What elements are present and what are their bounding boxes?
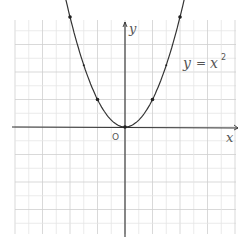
svg-text:y: y [182, 55, 192, 71]
data-point [165, 64, 167, 66]
svg-text:=: = [196, 56, 206, 70]
data-point [178, 15, 182, 19]
data-point [151, 98, 155, 102]
origin-label: O [112, 132, 119, 142]
data-point [123, 125, 127, 129]
data-point [83, 64, 85, 66]
data-point [96, 98, 100, 102]
parabola-graph: y x O y = x 2 [0, 0, 251, 250]
y-axis-label: y [128, 21, 137, 36]
data-point [68, 15, 72, 19]
equation-label: y = x 2 [182, 53, 226, 71]
axes [12, 22, 238, 237]
svg-text:x: x [210, 55, 218, 71]
svg-text:2: 2 [221, 53, 226, 62]
x-axis-label: x [226, 130, 234, 145]
